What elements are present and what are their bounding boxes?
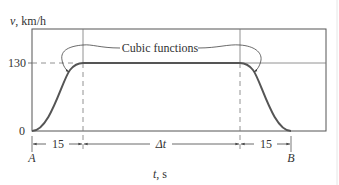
y-tick-0-label: 0 <box>19 124 25 138</box>
velocity-time-diagram: v, km/h 130 0 Cubic functions 15 Δt 15 A… <box>0 0 339 185</box>
y-tick-130-label: 130 <box>8 56 26 70</box>
dim-right-label: 15 <box>260 137 272 151</box>
annotation-cubic-functions: Cubic functions <box>122 41 199 55</box>
y-axis-label: v, km/h <box>10 14 46 28</box>
dim-middle-label: Δt <box>155 137 167 151</box>
velocity-curve <box>32 63 291 131</box>
x-axis-label: t, s <box>153 167 167 181</box>
point-a-label: A <box>27 151 36 165</box>
point-b-label: B <box>287 151 295 165</box>
dim-left-label: 15 <box>52 137 64 151</box>
